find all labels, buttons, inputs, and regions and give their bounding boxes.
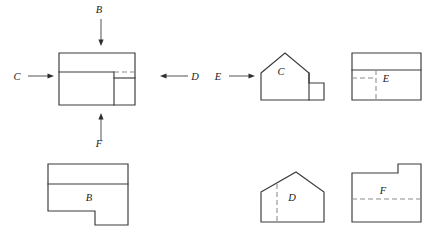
arrow-head-E-icon xyxy=(249,73,256,78)
orthographic-figure: CEBDF BCDEF xyxy=(0,0,434,246)
arrow-head-D-icon xyxy=(160,73,167,78)
arrow-head-F-icon xyxy=(98,113,103,120)
view-E-label: E xyxy=(382,73,390,84)
arrow-label-D: D xyxy=(190,71,199,82)
view-D-label: D xyxy=(287,192,296,203)
arrow-label-B: B xyxy=(96,4,103,15)
direction-arrow-D: D xyxy=(160,71,199,82)
view-main[interactable] xyxy=(59,53,135,105)
view-E[interactable]: E xyxy=(352,53,421,100)
view-C[interactable]: C xyxy=(261,53,324,100)
view-main-solid-edge xyxy=(59,53,135,105)
figure-canvas: CEBDF BCDEF xyxy=(0,0,434,246)
view-B-label: B xyxy=(86,192,93,203)
arrow-head-B-icon xyxy=(98,40,103,47)
arrow-label-E: E xyxy=(214,71,222,82)
direction-arrows-layer: BCDEF xyxy=(13,4,255,149)
arrow-head-C-icon xyxy=(48,73,55,78)
direction-arrow-C: C xyxy=(13,71,54,82)
arrow-label-F: F xyxy=(95,138,103,149)
direction-arrow-E: E xyxy=(214,71,255,82)
view-C-solid-edge xyxy=(261,53,324,100)
direction-arrow-F: F xyxy=(95,113,104,149)
arrow-label-C: C xyxy=(13,71,21,82)
view-F-solid-edge xyxy=(352,164,421,222)
view-F[interactable]: F xyxy=(352,164,421,222)
direction-arrow-B: B xyxy=(96,4,104,46)
view-F-label: F xyxy=(379,185,387,196)
view-D[interactable]: D xyxy=(261,172,324,222)
views-layer: CEBDF xyxy=(48,53,421,225)
view-B[interactable]: B xyxy=(48,164,128,225)
view-C-label: C xyxy=(277,66,285,77)
